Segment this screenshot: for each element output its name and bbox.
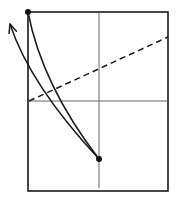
arrow-curve	[10, 24, 99, 159]
inner-curve	[28, 12, 99, 159]
end-point	[96, 156, 102, 162]
frame	[28, 12, 168, 191]
start-point	[25, 9, 31, 15]
dashed-line	[29, 37, 168, 101]
diagram-canvas	[0, 0, 180, 201]
